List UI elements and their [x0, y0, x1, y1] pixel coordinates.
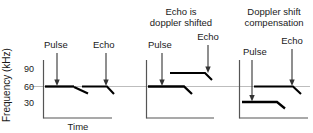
panel-2-echo-trace	[170, 73, 212, 80]
y-axis-label: Frequency (kHz)	[1, 48, 12, 122]
panel-3-pulse-trace	[242, 102, 285, 109]
panel-3-echo-arrow	[289, 49, 294, 86]
panel-2-pulse-arrow	[159, 53, 164, 86]
y-tick-60: 60	[24, 82, 34, 92]
x-axis-label: Time	[68, 121, 89, 132]
panel-1: Pulse Echo Time	[44, 39, 115, 132]
panel-2-echo-label: Echo	[197, 31, 219, 42]
panel-1-echo-sweep-a	[74, 87, 88, 94]
panel-3-echo-trace	[254, 87, 301, 95]
panel-3: Doppler shift compensation Echo Pulse	[240, 6, 309, 119]
panel-3-title-line-2: compensation	[244, 17, 303, 28]
doppler-shift-figure: Frequency (kHz) 90 60 30 Pulse Echo Time	[0, 0, 313, 133]
panel-2: Echo is doppler shifted Echo Pulse	[147, 6, 219, 119]
panel-2-title-line-1: Echo is	[165, 6, 196, 17]
panel-3-echo-label: Echo	[281, 35, 303, 46]
panel-2-title-line-2: doppler shifted	[150, 17, 212, 28]
panel-1-pulse-arrow	[54, 53, 59, 86]
panel-3-pulse-label: Pulse	[243, 46, 267, 57]
panel-1-pulse-label: Pulse	[44, 39, 68, 50]
figure-canvas: Frequency (kHz) 90 60 30 Pulse Echo Time	[0, 0, 313, 133]
panel-1-echo-arrow	[103, 53, 108, 86]
panel-2-pulse-label: Pulse	[148, 39, 172, 50]
panel-2-echo-arrow	[205, 45, 210, 73]
panel-3-title-line-1: Doppler shift	[247, 6, 301, 17]
y-tick-90: 90	[24, 64, 34, 74]
panel-1-echo-label: Echo	[93, 39, 115, 50]
panel-2-pulse-trace	[148, 87, 192, 95]
panel-3-pulse-arrow	[249, 60, 254, 102]
y-tick-30: 30	[24, 98, 34, 108]
